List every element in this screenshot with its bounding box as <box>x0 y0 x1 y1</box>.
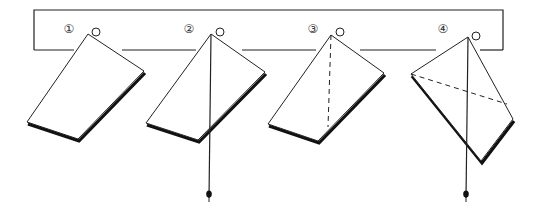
step-number-label: ④ <box>438 22 449 36</box>
step-number-label: ② <box>184 22 195 36</box>
plumb-bob-icon <box>463 191 469 198</box>
step-number-label: ③ <box>308 22 319 36</box>
panel-4: ④ <box>411 22 514 202</box>
card <box>268 35 384 141</box>
diagram-canvas: ①②③④ <box>0 0 538 212</box>
pin-icon <box>472 32 480 40</box>
panel-1: ① <box>27 22 145 141</box>
panel-2: ② <box>146 22 266 202</box>
pin-icon <box>92 28 100 36</box>
hanging-board <box>34 10 503 50</box>
pin-icon <box>336 28 344 36</box>
plumb-bob-icon <box>206 191 212 198</box>
panel-3: ③ <box>268 22 385 143</box>
pin-icon <box>216 28 224 36</box>
board-outline <box>34 10 503 50</box>
step-number-label: ① <box>64 22 75 36</box>
